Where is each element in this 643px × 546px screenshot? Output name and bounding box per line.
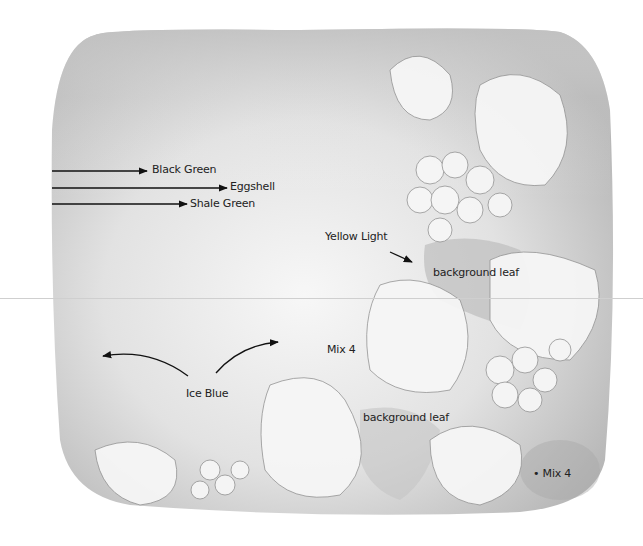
label-yellow-light: Yellow Light [325,230,387,243]
label-mix-4-corner: • Mix 4 [533,467,571,480]
painting-canvas [0,0,643,546]
label-mix-4-center: Mix 4 [327,343,356,356]
label-black-green: Black Green [152,163,216,176]
label-shale-green: Shale Green [190,197,255,210]
page-fold-line [0,298,643,299]
label-eggshell: Eggshell [230,180,275,193]
label-background-leaf-upper: background leaf [433,266,519,279]
label-background-leaf-lower: background leaf [363,411,449,424]
label-ice-blue: Ice Blue [186,387,228,400]
